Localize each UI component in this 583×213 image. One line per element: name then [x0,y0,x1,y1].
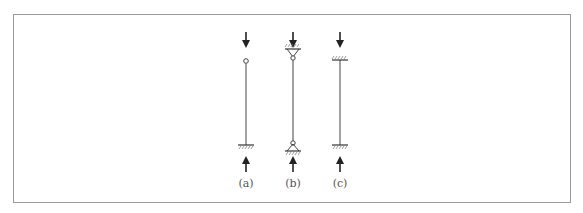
label-b: (b) [285,177,301,190]
fixed-support-bottom-icon [332,145,348,149]
fixed-support-bottom-icon [238,145,254,149]
column-c: (c) [332,32,348,190]
label-c: (c) [333,177,348,190]
column-a: (a) [238,32,254,190]
pin-support-bottom-icon [285,141,301,155]
fixed-support-top-icon [332,56,348,60]
label-a: (a) [238,177,253,190]
free-end-icon [244,59,249,64]
pin-support-top-icon [285,44,301,60]
column-b: (b) [285,32,301,190]
column-diagram: (a) (b) (c) [0,0,583,213]
